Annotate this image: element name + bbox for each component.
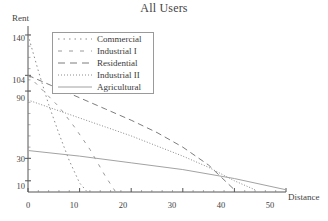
legend-label-industrial-i: Industrial I (97, 46, 137, 56)
legend-item-industrial-ii: Industrial II (53, 69, 153, 81)
legend-swatch-residential (56, 59, 94, 67)
legend-label-residential: Residential (97, 58, 138, 68)
legend-label-agricultural: Agricultural (97, 82, 141, 92)
legend-swatch-industrial-i (56, 47, 94, 55)
plot-area (0, 0, 328, 221)
series-line-agricultural (28, 151, 286, 190)
legend-item-agricultural: Agricultural (53, 81, 153, 93)
legend-item-residential: Residential (53, 57, 153, 69)
legend-label-commercial: Commercial (97, 34, 142, 44)
legend-swatch-agricultural (56, 83, 94, 91)
legend-swatch-industrial-ii (56, 71, 94, 79)
legend-swatch-commercial (56, 35, 94, 43)
x-axis-ticks (28, 188, 286, 192)
legend-label-industrial-ii: Industrial II (97, 70, 140, 80)
chart-container: All Users Rent Distance 140 104 90 30 10… (0, 0, 328, 221)
chart-legend: Commercial Industrial I Residential Indu… (52, 32, 154, 94)
legend-item-industrial-i: Industrial I (53, 45, 153, 57)
legend-item-commercial: Commercial (53, 33, 153, 45)
